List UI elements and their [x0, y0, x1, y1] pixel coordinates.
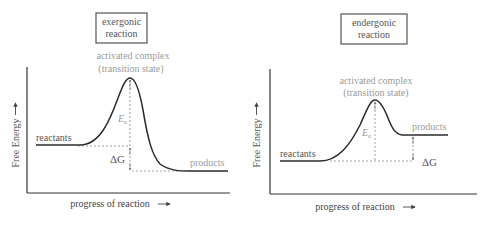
products-label: products — [190, 157, 225, 168]
activated-complex-label: activated complex — [96, 50, 169, 61]
energy-diagrams: exergonic reaction activated complex (tr… — [0, 0, 487, 225]
delta-g-label: ΔG — [110, 153, 125, 165]
exergonic-title-line1: exergonic — [102, 16, 142, 27]
x-axis-label: progress of reaction — [70, 198, 149, 209]
svg-text:Free Energy: Free Energy — [10, 119, 21, 168]
x-axis-label: progress of reaction — [315, 201, 394, 212]
products-label: products — [412, 121, 447, 132]
reactants-label: reactants — [36, 132, 72, 143]
endergonic-title-line1: endergonic — [352, 17, 397, 28]
reactants-label: reactants — [280, 148, 316, 159]
activation-energy-label: Ea — [361, 127, 371, 139]
delta-g-label: ΔG — [422, 156, 437, 168]
exergonic-title-line2: reaction — [105, 28, 137, 39]
y-axis-label: Free Energy — [251, 103, 262, 167]
activation-energy-label: Ea — [117, 113, 127, 125]
endergonic-diagram: endergonic reaction activated complex (t… — [251, 14, 477, 212]
svg-text:Free Energy: Free Energy — [251, 119, 262, 168]
endergonic-title-line2: reaction — [358, 29, 390, 40]
transition-state-label: (transition state) — [343, 87, 408, 99]
transition-state-label: (transition state) — [98, 63, 163, 75]
activated-complex-label: activated complex — [339, 75, 412, 86]
y-axis-label: Free Energy — [10, 103, 21, 167]
exergonic-diagram: exergonic reaction activated complex (tr… — [10, 13, 230, 209]
